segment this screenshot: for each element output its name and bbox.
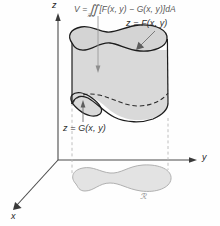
y-axis-label: y — [202, 152, 207, 162]
base-region-group — [73, 165, 171, 192]
x-axis-label: x — [11, 211, 16, 221]
upper-surface-label: z = F(x, y) — [126, 18, 167, 28]
x-axis-arrowhead — [13, 202, 22, 210]
region-label: ℛ — [140, 192, 146, 201]
figure-container: V =∬[F(x, y) − G(x, y)]dA ℛ z = F(x, y) … — [0, 0, 220, 226]
base-region-shape — [73, 165, 171, 192]
volume-formula-lead: V = — [74, 4, 87, 14]
z-axis-label: z — [52, 0, 57, 10]
diagram-svg — [0, 0, 220, 226]
z-axis-arrowhead — [55, 13, 60, 21]
integral-region-subscript: ℛ — [87, 12, 91, 18]
y-axis-arrowhead — [189, 157, 197, 162]
volume-formula-body: [F(x, y) − G(x, y)]dA — [99, 4, 175, 14]
lower-surface-label: z = G(x, y) — [63, 123, 106, 133]
x-axis — [17, 160, 58, 205]
